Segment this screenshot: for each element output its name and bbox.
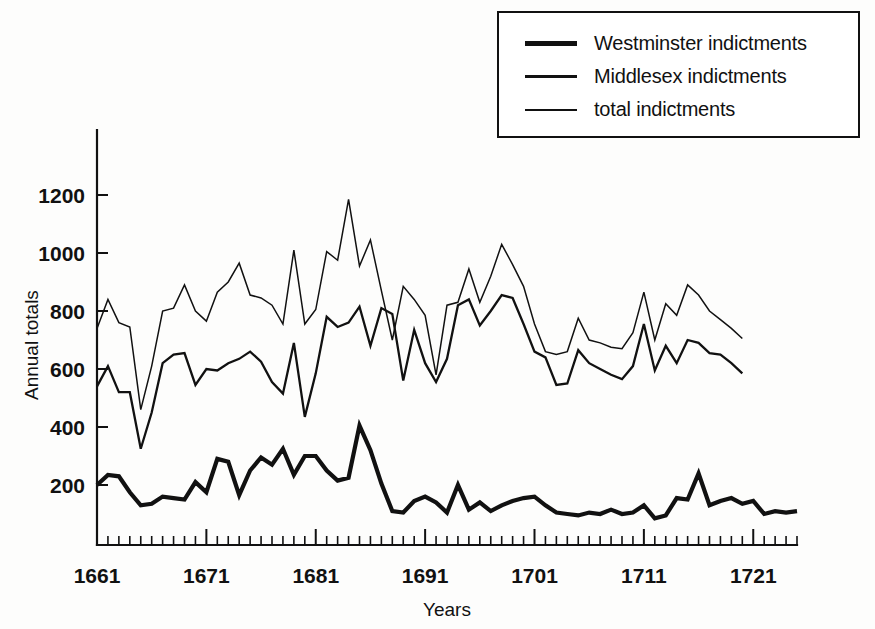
legend-line-swatch-westminster — [525, 39, 577, 49]
legend-line-swatch-total — [525, 105, 577, 115]
legend-label-westminster: Westminster indictments — [594, 32, 807, 55]
x-tick-label-1671: 1671 — [183, 564, 230, 587]
y-axis-tick-labels: 20040060080010001200 — [38, 184, 85, 497]
x-tick-label-1661: 1661 — [74, 564, 121, 587]
y-tick-label-1000: 1000 — [38, 242, 85, 265]
x-axis-title: Years — [423, 599, 471, 620]
y-tick-label-400: 400 — [50, 416, 85, 439]
y-axis-ticks — [97, 195, 108, 485]
y-tick-label-200: 200 — [50, 474, 85, 497]
y-axis-title: Annual totals — [21, 290, 42, 400]
legend-item-westminster: Westminster indictments — [499, 27, 858, 60]
legend-item-middlesex: Middlesex indictments — [499, 60, 858, 93]
chart-legend: Westminster indictments Middlesex indict… — [497, 11, 860, 138]
chart-figure: 20040060080010001200 1661167116811691170… — [0, 0, 875, 629]
y-tick-label-600: 600 — [50, 358, 85, 381]
y-tick-label-800: 800 — [50, 300, 85, 323]
x-axis-ticks — [97, 529, 797, 545]
x-axis-tick-labels: 1661167116811691170117111721 — [74, 564, 777, 587]
x-tick-label-1701: 1701 — [511, 564, 558, 587]
series-line-middlesex-indictments — [97, 295, 742, 449]
x-tick-label-1681: 1681 — [292, 564, 339, 587]
series-line-westminster-indictments — [97, 426, 797, 519]
x-tick-label-1721: 1721 — [730, 564, 777, 587]
y-tick-label-1200: 1200 — [38, 184, 85, 207]
legend-label-middlesex: Middlesex indictments — [594, 65, 787, 88]
x-tick-label-1691: 1691 — [402, 564, 449, 587]
legend-label-total: total indictments — [594, 98, 735, 121]
x-tick-label-1711: 1711 — [621, 564, 667, 587]
legend-item-total: total indictments — [499, 93, 858, 126]
legend-line-swatch-middlesex — [525, 72, 577, 82]
